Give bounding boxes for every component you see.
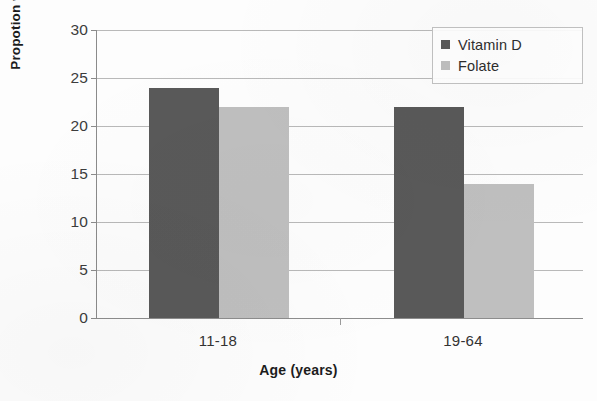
legend-label-folate: Folate bbox=[458, 58, 499, 74]
legend-label-vitamin-d: Vitamin D bbox=[458, 37, 522, 53]
y-tickmark-10 bbox=[91, 222, 97, 223]
legend-item-vitamin-d: Vitamin D bbox=[441, 34, 574, 55]
x-axis-title: Age (years) bbox=[0, 362, 597, 378]
y-tickmark-0 bbox=[91, 318, 97, 319]
y-tick-label-30: 30 bbox=[48, 21, 88, 39]
y-tickmark-30 bbox=[91, 30, 97, 31]
legend-item-folate: Folate bbox=[441, 55, 574, 76]
legend-swatch-folate bbox=[441, 61, 450, 70]
bar-vitamin-d-19-64 bbox=[394, 107, 464, 318]
chart-figure: Propotion with levels indicating deficie… bbox=[0, 0, 597, 401]
y-tick-label-25: 25 bbox=[48, 69, 88, 87]
bar-folate-11-18 bbox=[219, 107, 289, 318]
y-tickmark-15 bbox=[91, 174, 97, 175]
y-tick-label-0: 0 bbox=[48, 309, 88, 327]
y-tickmark-5 bbox=[91, 270, 97, 271]
y-axis-tick-labels: 30 25 20 15 10 5 0 bbox=[0, 30, 88, 318]
x-tickmark-separator bbox=[340, 318, 341, 325]
chart-legend: Vitamin D Folate bbox=[432, 27, 583, 84]
bar-folate-19-64 bbox=[464, 184, 534, 318]
y-tickmark-25 bbox=[91, 78, 97, 79]
x-tick-label-19-64: 19-64 bbox=[443, 332, 482, 349]
y-tick-label-20: 20 bbox=[48, 117, 88, 135]
bar-vitamin-d-11-18 bbox=[149, 88, 219, 318]
y-tick-label-15: 15 bbox=[48, 165, 88, 183]
x-tick-label-11-18: 11-18 bbox=[199, 332, 237, 349]
y-tick-label-5: 5 bbox=[48, 261, 88, 279]
y-tick-label-10: 10 bbox=[48, 213, 88, 231]
y-tickmark-20 bbox=[91, 126, 97, 127]
legend-swatch-vitamin-d bbox=[441, 40, 450, 49]
